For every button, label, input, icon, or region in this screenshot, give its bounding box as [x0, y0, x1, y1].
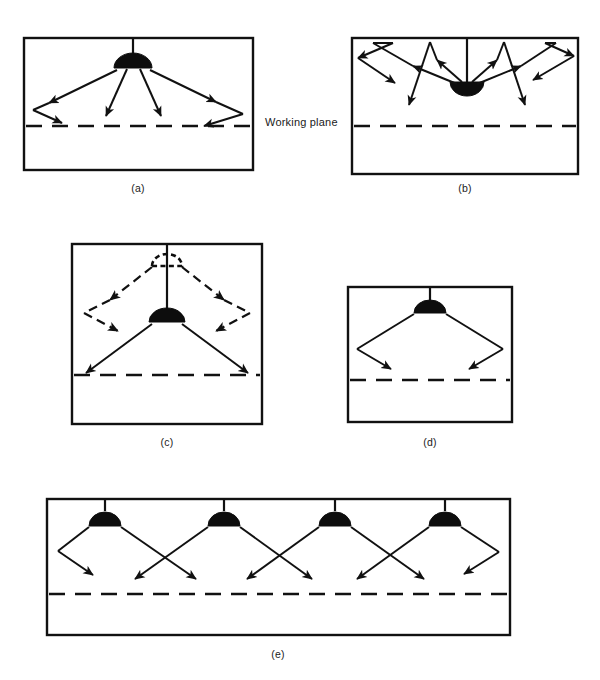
- lighting-diagram-figure: (a) Working plane: [0, 0, 600, 680]
- panel-c-ray-dashed-right: [182, 267, 224, 300]
- panel-d-ray-right-bounce: [469, 349, 503, 369]
- panel-c-caption: (c): [161, 436, 174, 448]
- panel-c-ray-solid-right: [182, 324, 248, 373]
- panel-b-ray-down-inner-left: [409, 42, 430, 105]
- panel-c-luminaire-icon: [149, 308, 185, 322]
- panel-b: (b): [352, 38, 578, 194]
- panel-c-ray-dashed-left-bounce: [84, 313, 118, 331]
- panel-e-luminaire-icon-4: [429, 512, 461, 526]
- panel-e-ray-2-right: [240, 527, 312, 579]
- figure-root: (a) Working plane: [0, 0, 600, 680]
- panel-a-caption: (a): [131, 182, 144, 194]
- panel-d-ray-to-left-wall: [357, 314, 414, 349]
- panel-a-ray-to-left-wall: [49, 70, 117, 103]
- panel-b-ray-up-inner-right: [472, 60, 497, 82]
- panel-c-ray-solid-left: [86, 324, 152, 373]
- panel-a: (a): [24, 38, 253, 194]
- panel-d-luminaire-icon: [414, 300, 446, 313]
- panel-e-ray-3-right: [351, 527, 424, 579]
- panel-e-ray-1-right: [121, 527, 196, 579]
- panel-d-ray-to-right-wall: [446, 314, 503, 349]
- panel-c-ray-dashed-right-link: [224, 300, 250, 313]
- panel-b-ray-down-inner-right: [504, 42, 525, 105]
- panel-a-ray-down-left: [106, 69, 127, 116]
- panel-b-ray-down-outer-right: [533, 56, 574, 80]
- panel-b-ray-ceiling-outer-left: [373, 43, 413, 66]
- panel-c: (c): [72, 244, 262, 448]
- panel-a-ray-left-wall-link: [33, 103, 49, 110]
- panel-e-luminaire-icon-1: [89, 512, 121, 526]
- panel-a-ray-right-wall-bounce: [204, 114, 243, 126]
- panel-e-ray-left-wall-bounce: [58, 551, 93, 575]
- panel-a-ray-left-wall-bounce: [33, 110, 62, 123]
- panel-a-luminaire-icon: [114, 53, 152, 68]
- panel-d-ray-left-bounce: [357, 349, 391, 369]
- panel-d: (d): [348, 287, 512, 448]
- panel-b-ray-up-inner-left: [437, 60, 462, 82]
- panel-e-luminaire-icon-3: [319, 512, 351, 526]
- panel-e-ray-3-left: [247, 527, 319, 579]
- panel-e-ray-left-wall-in: [58, 527, 89, 551]
- panel-b-room-frame: [352, 38, 578, 174]
- panel-e-luminaire-icon-2: [208, 512, 240, 526]
- panel-e-ray-2-left: [135, 527, 208, 579]
- panel-b-caption: (b): [458, 182, 471, 194]
- panel-a-ray-down-right: [140, 69, 161, 116]
- panel-e-ray-right-wall-in: [461, 527, 499, 552]
- panel-c-ray-dashed-right-bounce: [216, 313, 250, 331]
- working-plane-label: Working plane: [265, 116, 338, 128]
- panel-e-ray-4-left: [357, 527, 429, 579]
- panel-d-caption: (d): [423, 436, 436, 448]
- panel-b-ray-ceiling-inner-right: [497, 42, 504, 60]
- panel-e-caption: (e): [271, 648, 284, 660]
- panel-a-ray-right-wall-link: [216, 102, 243, 114]
- panel-b-ray-down-outer-left: [358, 58, 395, 83]
- panel-a-ray-to-right-wall: [150, 70, 216, 102]
- panel-c-ray-dashed-left-link: [84, 300, 110, 313]
- panel-c-ray-dashed-left: [110, 267, 152, 300]
- panel-e: (e): [47, 499, 510, 660]
- panel-e-ray-right-wall-bounce: [464, 552, 499, 574]
- panel-b-ray-ceiling-outer-right-back: [545, 43, 574, 56]
- panel-b-ray-ceiling-inner-left: [430, 42, 437, 60]
